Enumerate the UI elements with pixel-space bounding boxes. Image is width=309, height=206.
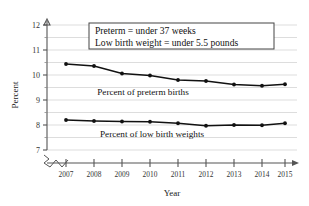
x-tick-label: 2008: [87, 170, 102, 179]
y-tick-label: 8: [36, 121, 40, 130]
y-tick-label: 10: [32, 71, 40, 80]
x-tick-label: 2014: [255, 170, 270, 179]
y-tick-label: 7: [36, 146, 40, 155]
data-point: [232, 123, 236, 127]
y-axis: [43, 19, 50, 150]
data-point: [283, 121, 287, 125]
data-point: [148, 120, 152, 124]
data-point: [204, 79, 208, 83]
x-tick-label: 2007: [59, 170, 74, 179]
data-point: [64, 118, 68, 122]
legend-annotation-box: Preterm = under 37 weeks Low birth weigh…: [89, 23, 274, 49]
x-tick-label: 2009: [115, 170, 130, 179]
x-tick-label: 2010: [143, 170, 158, 179]
chart-container: 12 11 10 9 8 7 2007 2008 2009: [0, 0, 309, 206]
y-tick-label: 12: [32, 21, 40, 30]
series-low-birth-weights: [64, 118, 287, 128]
legend-line-preterm: Preterm = under 37 weeks: [95, 25, 196, 36]
data-point: [176, 78, 180, 82]
data-point: [232, 83, 236, 87]
y-tick-label: 11: [32, 46, 40, 55]
axis-break-icon: [44, 155, 68, 167]
data-point: [92, 119, 96, 123]
x-axis: [47, 159, 299, 167]
x-tick-label: 2015: [278, 170, 293, 179]
data-point: [204, 124, 208, 128]
low-birth-weight-series-label: Percent of low birth weights: [100, 129, 205, 139]
y-tick-label: 9: [36, 96, 40, 105]
data-point: [64, 62, 68, 66]
y-axis-title: Percent: [10, 81, 20, 108]
x-tick-labels: 2007 2008 2009 2010 2011 2012 2013 2014 …: [59, 170, 293, 179]
legend-line-low-birth-weight: Low birth weight = under 5.5 pounds: [95, 37, 238, 48]
data-point: [148, 74, 152, 78]
x-tick-label: 2012: [199, 170, 214, 179]
data-point: [260, 84, 264, 88]
data-point: [260, 123, 264, 127]
data-point: [176, 121, 180, 125]
data-point: [283, 82, 287, 86]
x-axis-title: Year: [164, 188, 181, 198]
x-tick-label: 2011: [171, 170, 186, 179]
data-point: [92, 64, 96, 68]
preterm-series-label: Percent of preterm births: [97, 87, 189, 97]
data-point: [120, 72, 124, 76]
series-annotations: Percent of preterm births Percent of low…: [97, 87, 204, 139]
line-chart: 12 11 10 9 8 7 2007 2008 2009: [0, 0, 309, 206]
x-tick-label: 2013: [227, 170, 242, 179]
data-point: [120, 120, 124, 124]
y-tick-labels: 12 11 10 9 8 7: [32, 21, 40, 155]
